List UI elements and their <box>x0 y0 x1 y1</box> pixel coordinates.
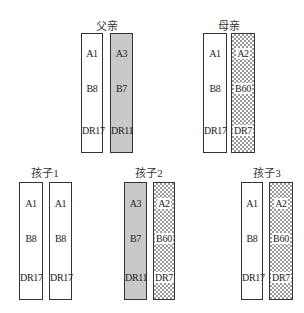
allele-label: B60 <box>232 83 254 94</box>
haplotype-bar: A1B8DR17 <box>49 182 72 300</box>
allele-label: B7 <box>125 233 146 244</box>
father-title: 父亲 <box>67 20 147 32</box>
mother-title: 母亲 <box>189 20 269 32</box>
allele-label: B8 <box>50 233 71 244</box>
child-1-title: 孩子1 <box>5 167 85 179</box>
allele-label: DR17 <box>20 272 42 283</box>
haplotype-bar: A2B60DR7 <box>269 182 293 300</box>
allele-label: DR7 <box>154 272 174 283</box>
allele-label: B8 <box>242 233 262 244</box>
allele-label: A3 <box>111 48 132 59</box>
allele-label: A1 <box>82 48 102 59</box>
allele-label: DR11 <box>125 272 146 283</box>
allele-label: A2 <box>270 198 292 209</box>
haplotype-bar: A1B8DR17 <box>19 182 43 300</box>
haplotype-bar: A1B8DR17 <box>203 33 227 153</box>
allele-label: DR17 <box>82 125 102 136</box>
haplotype-bar: A1B8DR17 <box>81 33 103 153</box>
allele-label: DR7 <box>270 272 292 283</box>
allele-label: A1 <box>20 198 42 209</box>
allele-label: A1 <box>50 198 71 209</box>
allele-label: DR17 <box>242 272 262 283</box>
allele-label: B8 <box>204 83 226 94</box>
allele-label: A2 <box>154 198 174 209</box>
allele-label: A2 <box>232 48 254 59</box>
allele-label: B8 <box>20 233 42 244</box>
haplotype-bar: A1B8DR17 <box>241 182 263 300</box>
allele-label: B60 <box>154 233 174 244</box>
haplotype-bar: A3B7DR11 <box>110 33 133 153</box>
allele-label: A1 <box>242 198 262 209</box>
allele-label: B7 <box>111 83 132 94</box>
allele-label: B8 <box>82 83 102 94</box>
allele-label: A3 <box>125 198 146 209</box>
haplotype-bar: A3B7DR11 <box>124 182 147 300</box>
allele-label: DR11 <box>111 125 132 136</box>
child-2-title: 孩子2 <box>109 167 189 179</box>
allele-label: DR17 <box>204 125 226 136</box>
allele-label: DR17 <box>50 272 71 283</box>
haplotype-bar: A2B60DR7 <box>231 33 255 153</box>
haplotype-bar: A2B60DR7 <box>153 182 175 300</box>
child-3-title: 孩子3 <box>227 167 304 179</box>
allele-label: A1 <box>204 48 226 59</box>
allele-label: DR7 <box>232 125 254 136</box>
allele-label: B60 <box>270 233 292 244</box>
